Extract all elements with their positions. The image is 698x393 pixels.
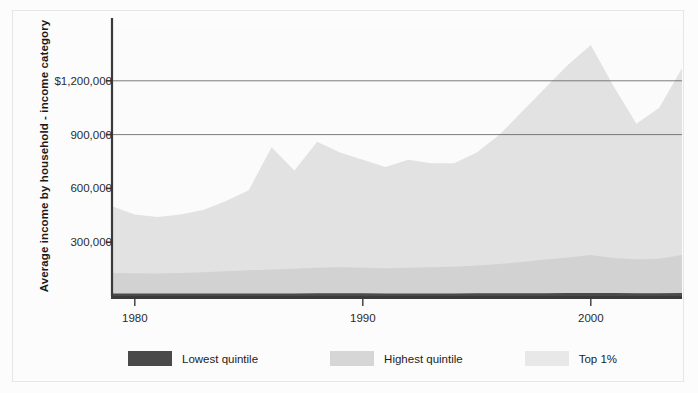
chart-figure: Average income by household - income cat… xyxy=(0,0,698,393)
legend-swatch-top-1-percent xyxy=(525,351,569,366)
x-tick-label-1990: 1990 xyxy=(350,312,376,324)
legend-swatch-highest-quintile xyxy=(330,351,374,366)
legend-label-highest-quintile: Highest quintile xyxy=(384,353,463,365)
x-tick-label-1980: 1980 xyxy=(122,312,148,324)
x-tick-label-2000: 2000 xyxy=(578,312,604,324)
area-chart-svg xyxy=(0,0,698,393)
legend-swatch-lowest-quintile xyxy=(128,351,172,366)
legend-item-highest-quintile[interactable]: Highest quintile xyxy=(330,351,463,366)
chart-legend: Lowest quintile Highest quintile Top 1% xyxy=(128,351,617,366)
y-tick-label-300000: 300,000 xyxy=(70,236,112,248)
legend-item-lowest-quintile[interactable]: Lowest quintile xyxy=(128,351,258,366)
y-tick-label-1200000: $1,200,000 xyxy=(54,75,112,87)
y-tick-label-600000: 600,000 xyxy=(70,182,112,194)
y-tick-label-900000: 900,000 xyxy=(70,129,112,141)
plot-stage xyxy=(0,0,698,393)
legend-item-top-1-percent[interactable]: Top 1% xyxy=(525,351,617,366)
legend-label-top-1-percent: Top 1% xyxy=(579,353,617,365)
legend-label-lowest-quintile: Lowest quintile xyxy=(182,353,258,365)
